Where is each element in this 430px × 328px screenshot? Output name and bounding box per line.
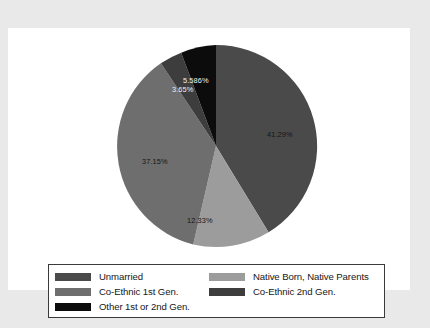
legend-swatch-other-1st-or-2nd-gen bbox=[55, 303, 91, 311]
legend-swatch-native-born-native-parents bbox=[209, 273, 245, 281]
legend-label-native-born-native-parents: Native Born, Native Parents bbox=[253, 271, 369, 282]
pie-chart: 41.29% 12.33% 37.15% 3.65% 5.586% bbox=[114, 44, 318, 248]
legend-item-native-born-native-parents[interactable]: Native Born, Native Parents bbox=[209, 269, 369, 284]
legend-item-co-ethnic-1st-gen[interactable]: Co-Ethnic 1st Gen. bbox=[55, 284, 190, 299]
legend-column-left: Unmarried Co-Ethnic 1st Gen. Other 1st o… bbox=[55, 269, 190, 314]
legend-label-co-ethnic-1st-gen: Co-Ethnic 1st Gen. bbox=[99, 286, 178, 297]
legend-label-co-ethnic-2nd-gen: Co-Ethnic 2nd Gen. bbox=[253, 286, 335, 297]
pie-chart-plot-area: 41.29% 12.33% 37.15% 3.65% 5.586% bbox=[8, 28, 410, 260]
legend-label-unmarried: Unmarried bbox=[99, 271, 143, 282]
pie-label-native-born-native-parents: 12.33% bbox=[187, 216, 213, 225]
legend-column-right: Native Born, Native Parents Co-Ethnic 2n… bbox=[209, 269, 369, 299]
legend-item-other-1st-or-2nd-gen[interactable]: Other 1st or 2nd Gen. bbox=[55, 299, 190, 314]
pie-label-co-ethnic-2nd-gen: 3.65% bbox=[172, 85, 193, 94]
legend-swatch-unmarried bbox=[55, 273, 91, 281]
legend: Unmarried Co-Ethnic 1st Gen. Other 1st o… bbox=[48, 264, 385, 318]
pie-label-unmarried: 41.29% bbox=[267, 130, 293, 139]
legend-swatch-co-ethnic-1st-gen bbox=[55, 288, 91, 296]
legend-item-unmarried[interactable]: Unmarried bbox=[55, 269, 190, 284]
legend-item-co-ethnic-2nd-gen[interactable]: Co-Ethnic 2nd Gen. bbox=[209, 284, 369, 299]
legend-label-other-1st-or-2nd-gen: Other 1st or 2nd Gen. bbox=[99, 301, 190, 312]
pie-chart-svg bbox=[114, 44, 318, 248]
pie-label-other-1st-or-2nd-gen: 5.586% bbox=[183, 76, 209, 85]
figure-canvas: 41.29% 12.33% 37.15% 3.65% 5.586% Unmarr… bbox=[0, 0, 430, 328]
legend-swatch-co-ethnic-2nd-gen bbox=[209, 288, 245, 296]
pie-label-co-ethnic-1st-gen: 37.15% bbox=[142, 157, 168, 166]
